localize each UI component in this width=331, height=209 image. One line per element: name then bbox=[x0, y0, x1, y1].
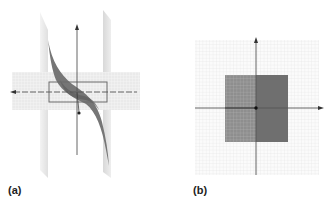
surface-plot-3d bbox=[0, 0, 165, 209]
z-axis-arrow-icon bbox=[75, 24, 79, 30]
panel-b-label: (b) bbox=[193, 184, 207, 196]
origin-point bbox=[254, 106, 257, 109]
point-marker bbox=[77, 111, 80, 114]
region-plot-2d bbox=[165, 0, 331, 209]
square-right-half bbox=[256, 75, 288, 142]
panel-a-label: (a) bbox=[8, 184, 21, 196]
x-axis-arrow-icon bbox=[318, 106, 324, 110]
panel-a: (a) bbox=[0, 0, 165, 209]
panel-b: (b) bbox=[165, 0, 331, 209]
